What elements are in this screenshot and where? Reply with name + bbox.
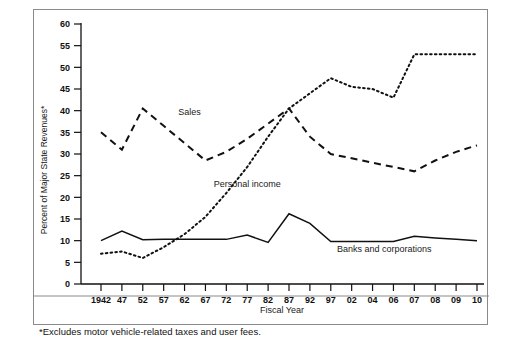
series-line-0 bbox=[101, 109, 477, 172]
line-chart-svg: Percent of Major State Revenues* 0510152… bbox=[34, 10, 489, 326]
footnote: *Excludes motor vehicle-related taxes an… bbox=[39, 321, 489, 339]
y-tick-label: 15 bbox=[60, 214, 70, 224]
data-series-group bbox=[101, 54, 477, 258]
y-tick-label: 55 bbox=[60, 41, 70, 51]
y-tick-label: 30 bbox=[60, 149, 70, 159]
y-axis-title-text: Percent of Major State Revenues* bbox=[39, 105, 49, 234]
y-tick-label: 10 bbox=[60, 236, 70, 246]
x-axis-ticks: 1942475257626772778287929702040607080910 bbox=[91, 284, 482, 305]
footnote-text: *Excludes motor vehicle-related taxes an… bbox=[39, 326, 261, 337]
y-tick-label: 60 bbox=[60, 19, 70, 29]
series-line-1 bbox=[101, 54, 477, 258]
chart-figure: Percent of Major State Revenues* 0510152… bbox=[33, 9, 488, 325]
y-axis-label: Percent of Major State Revenues* bbox=[39, 105, 49, 234]
y-tick-label: 20 bbox=[60, 193, 70, 203]
series-label-0: Sales bbox=[178, 107, 201, 117]
series-label-2: Banks and corporations bbox=[337, 244, 432, 254]
series-line-2 bbox=[101, 214, 477, 243]
chart-plot-area: Percent of Major State Revenues* 0510152… bbox=[34, 10, 489, 326]
y-tick-label: 35 bbox=[60, 128, 70, 138]
series-label-1: Personal income bbox=[214, 179, 281, 189]
x-axis-title-text: Fiscal Year bbox=[260, 305, 304, 315]
y-tick-label: 5 bbox=[65, 258, 70, 268]
y-tick-label: 40 bbox=[60, 106, 70, 116]
y-tick-label: 50 bbox=[60, 63, 70, 73]
y-axis-ticks: 051015202530354045505560 bbox=[60, 19, 81, 289]
y-tick-label: 0 bbox=[65, 279, 70, 289]
y-tick-label: 25 bbox=[60, 171, 70, 181]
y-tick-label: 45 bbox=[60, 84, 70, 94]
